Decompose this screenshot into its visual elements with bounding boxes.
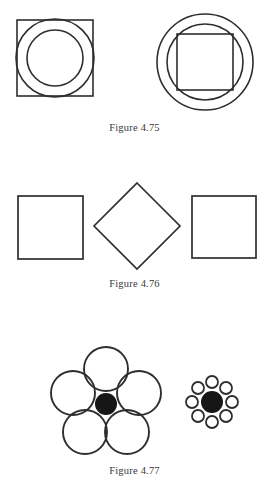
- figure-475-artwork: [0, 0, 269, 120]
- figure-475-block: Figure 4.75: [0, 0, 269, 145]
- large-surround-cluster: [51, 347, 161, 454]
- middle-diamond: [94, 183, 180, 269]
- surround-circle-small: [192, 410, 204, 422]
- outer-square: [17, 20, 93, 96]
- surround-circle-large: [105, 410, 149, 454]
- figure-477-artwork: [0, 325, 269, 470]
- surround-circle-large: [51, 371, 95, 415]
- inscribed-square: [177, 34, 233, 90]
- figure-477-caption: Figure 4.77: [0, 465, 269, 476]
- surround-circle-small: [206, 376, 218, 388]
- figure-476-artwork: [0, 170, 269, 275]
- figure-page: Figure 4.75 Figure 4.76: [0, 0, 269, 492]
- inner-ring-circle: [167, 24, 243, 100]
- surround-circle-small: [206, 416, 218, 428]
- small-surround-cluster: [186, 376, 238, 428]
- figure-476-caption: Figure 4.76: [0, 278, 269, 289]
- right-square: [192, 196, 256, 258]
- outer-ring-circle: [157, 14, 253, 110]
- surround-circle-small: [226, 396, 238, 408]
- surround-circle-large: [84, 347, 128, 391]
- surround-circle-small: [186, 396, 198, 408]
- center-disc-left: [95, 393, 117, 415]
- surround-circle-small: [220, 410, 232, 422]
- square-with-concentric-circles: [16, 19, 94, 97]
- left-square: [18, 196, 83, 259]
- surround-circle-small: [192, 382, 204, 394]
- surround-circle-small: [220, 382, 232, 394]
- concentric-circles-with-inscribed-square: [157, 14, 253, 110]
- center-disc-right: [201, 391, 223, 413]
- inner-circle: [27, 30, 83, 86]
- figure-477-block: Figure 4.77: [0, 325, 269, 492]
- surround-circle-large: [117, 371, 161, 415]
- figure-476-block: Figure 4.76: [0, 170, 269, 305]
- figure-475-caption: Figure 4.75: [0, 122, 269, 133]
- surround-circle-large: [63, 410, 107, 454]
